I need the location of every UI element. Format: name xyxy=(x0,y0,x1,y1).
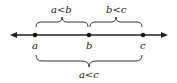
point-label-a: a xyxy=(32,40,38,51)
label-a-lt-c: a<c xyxy=(79,69,99,80)
right-arrow-icon xyxy=(161,32,168,38)
point-a xyxy=(33,33,37,37)
label-b-lt-c: b<c xyxy=(106,4,127,15)
brace-b-c xyxy=(90,17,142,27)
brace-a-c xyxy=(36,55,142,67)
point-c xyxy=(141,33,145,37)
label-a-lt-b: a<b xyxy=(51,4,72,15)
point-label-b: b xyxy=(86,40,92,51)
left-arrow-icon xyxy=(10,32,17,38)
point-label-c: c xyxy=(140,40,146,51)
brace-a-b xyxy=(36,17,88,27)
number-line-diagram: a b c a<b b<c a<c xyxy=(0,0,177,83)
point-b xyxy=(87,33,91,37)
